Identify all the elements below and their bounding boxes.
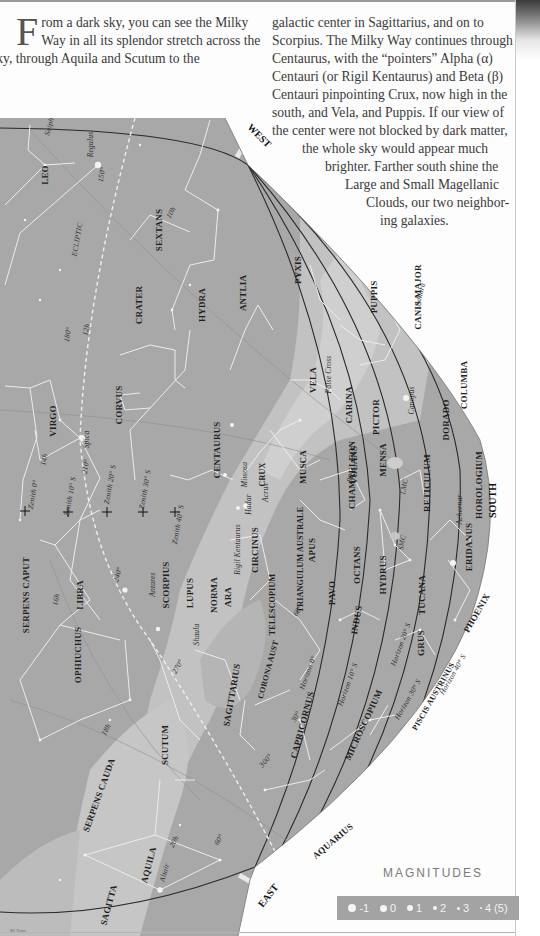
- body-line: brighter. Farther south shine the: [325, 158, 498, 176]
- magnitudes-title: MAGNITUDES: [383, 866, 523, 880]
- constellation-label: SEXTANS: [154, 209, 164, 251]
- constellation-label: NORMA: [209, 577, 219, 613]
- constellation-label: COLUMBA: [459, 361, 469, 409]
- page-top-rule: [0, 0, 515, 2]
- constellation-label: TRIANGULUM AUSTRALE: [296, 507, 305, 612]
- constellation-label: CIRCINUS: [250, 527, 260, 573]
- body-line: Clouds, our two neighbor-: [366, 194, 509, 212]
- constellation-label: ANTLIA: [238, 275, 248, 311]
- magnitude-label: 0: [390, 902, 396, 914]
- constellation-label: PUPPIS: [369, 281, 379, 314]
- body-line: Centauri pinpointing Crux, now high in t…: [272, 86, 507, 104]
- star-label: Antares: [148, 572, 157, 596]
- page-bottom-rule: [0, 932, 515, 933]
- body-line: south, and Vela, and Puppis. If our view…: [272, 104, 504, 122]
- body-line: Scorpius. The Milky Way continues throug…: [272, 32, 513, 50]
- magnitudes-legend: -1 0 1 2 3 4 (5): [337, 896, 519, 920]
- constellation-label: SERPENS CAPUT: [21, 557, 31, 633]
- constellation-label: CRATER: [134, 286, 144, 325]
- constellation-label: PAVO: [327, 581, 337, 605]
- constellation-label: RETICULUM: [422, 454, 432, 512]
- magnitude-label: 3: [463, 902, 469, 914]
- constellation-label: CENTAURUS: [212, 421, 222, 478]
- constellation-label: LUPUS: [185, 578, 195, 609]
- constellation-label: APUS: [307, 538, 317, 562]
- book-spine-shadow: [516, 0, 540, 936]
- constellation-label: PICTOR: [371, 399, 381, 435]
- book-page: WEST EAST SOUTH LEO SEXTANS CRATER HYDRA…: [0, 0, 540, 936]
- intro-line: rom a dark sky, you can see the Milky: [16, 14, 266, 32]
- star-label: Regulus: [86, 132, 95, 158]
- constellation-label: ARA: [223, 587, 233, 607]
- constellation-label: SCUTUM: [160, 725, 170, 765]
- constellation-label: LIBRA: [75, 580, 85, 610]
- intro-paragraph: F rom a dark sky, you can see the Milky …: [16, 14, 266, 69]
- magnitude-item: 1: [407, 902, 422, 914]
- star-label: Achernar: [455, 495, 464, 525]
- star-label: Canopus: [407, 386, 416, 414]
- constellation-label: LEO: [40, 165, 50, 185]
- constellation-label: CARINA: [344, 386, 354, 423]
- constellation-label: PYXIS: [293, 256, 303, 284]
- constellation-label: HYDRUS: [378, 555, 388, 594]
- star-label: Rigil Kentaurus: [233, 524, 242, 575]
- constellation-label: MUSCA: [298, 450, 308, 484]
- intro-line: Way in all its splendor stretch across t…: [16, 32, 266, 50]
- direction-south: SOUTH: [487, 483, 498, 518]
- constellation-label: VIRGO: [48, 405, 58, 437]
- body-line: Centauri (or Rigil Kentaurus) and Beta (…: [272, 68, 503, 86]
- magnitude-label: 4 (5): [485, 902, 508, 914]
- body-line: galactic center in Sagittarius, and on t…: [272, 14, 484, 32]
- page-right-rule: [515, 0, 516, 936]
- drop-cap: F: [16, 16, 38, 48]
- magnitude-item: 0: [380, 902, 396, 914]
- body-line: the whole sky would appear much: [302, 140, 488, 158]
- magnitude-label: 2: [440, 902, 446, 914]
- star-label: Spica: [82, 431, 91, 449]
- star-dot-icon: [380, 905, 387, 912]
- star-dot-icon: [407, 905, 413, 911]
- star-dot-icon: [433, 906, 437, 910]
- constellation-label: GRUS: [416, 630, 426, 656]
- constellation-label: DORADO: [441, 399, 451, 440]
- star-label: False Cross: [324, 356, 333, 394]
- magnitude-item: 3: [457, 902, 469, 914]
- constellation-label: SCORPIUS: [161, 561, 171, 608]
- magnitude-item: 4 (5): [480, 902, 508, 914]
- constellation-label: CORVUS: [114, 386, 124, 425]
- map-credit: WI Tirion: [10, 928, 26, 933]
- body-line: Large and Small Magellanic: [345, 176, 499, 194]
- magnitude-label: -1: [359, 902, 369, 914]
- constellation-label: TELESCOPIUM: [268, 574, 277, 635]
- constellation-label: OPHIUCHUS: [73, 627, 83, 683]
- star-label: Mimosa: [240, 462, 249, 487]
- constellation-label: TUCANA: [417, 575, 427, 615]
- constellation-label: HOROLOGIUM: [474, 451, 484, 519]
- constellation-label: HYDRA: [197, 288, 207, 322]
- body-line: Centaurus, with the “pointers” Alpha (α): [272, 50, 493, 68]
- magnitude-label: 1: [416, 902, 422, 914]
- magnitude-item: -1: [348, 902, 369, 914]
- body-line: the center were not blocked by dark matt…: [272, 122, 508, 140]
- constellation-label: VELA: [308, 367, 318, 393]
- constellation-label: MENSA: [378, 443, 388, 477]
- constellation-label: ERIDANUS: [464, 523, 474, 572]
- star-dot-icon: [480, 907, 482, 909]
- star-label: Shaula: [192, 623, 201, 645]
- star-dot-icon: [457, 907, 460, 910]
- intro-line: sky, through Aquila and Scutum to the: [0, 50, 266, 68]
- body-line: ing galaxies.: [380, 212, 449, 230]
- star-label: Acrux: [261, 483, 270, 502]
- constellation-label: OCTANS: [352, 546, 362, 584]
- star-dot-icon: [348, 904, 356, 912]
- magnitude-item: 2: [433, 902, 446, 914]
- star-label: Hadar: [244, 494, 253, 515]
